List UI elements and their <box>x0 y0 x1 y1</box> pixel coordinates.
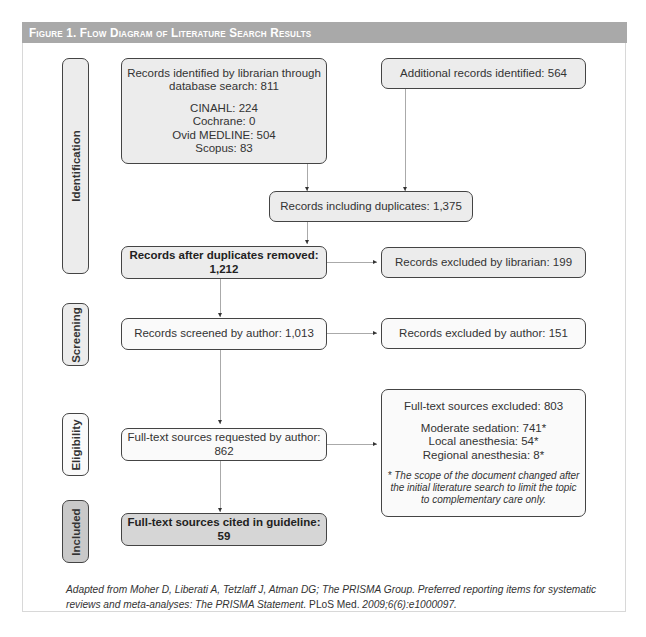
arrow-right-icon <box>373 442 377 446</box>
box-including-duplicates: Records including duplicates: 1,375 <box>269 191 473 222</box>
excluded-author-text: Records excluded by author: 151 <box>399 327 568 341</box>
arrow-right-icon <box>373 260 377 264</box>
including-duplicates-text: Records including duplicates: 1,375 <box>280 200 462 214</box>
stage-label: Eligibility <box>70 419 82 470</box>
figure-title: Figure 1. Flow Diagram of Literature Sea… <box>29 25 311 40</box>
source-cochrane: Cochrane: 0 <box>193 115 256 129</box>
box-cited: Full-text sources cited in guideline: 59 <box>121 513 327 546</box>
connector-line <box>220 460 221 512</box>
scope-note-line1: * The scope of the document changed afte… <box>388 470 580 482</box>
source-ovid-medline: Ovid MEDLINE: 504 <box>172 129 276 143</box>
box-fulltext-excluded: Full-text sources excluded: 803 Moderate… <box>381 389 586 517</box>
stage-identification: Identification <box>62 58 89 274</box>
after-duplicates-text: Records after duplicates removed: 1,212 <box>122 249 326 276</box>
fulltext-excluded-title: Full-text sources excluded: 803 <box>404 400 563 414</box>
source-cinahl: CINAHL: 224 <box>190 102 258 116</box>
reason-regional-anesthesia: Regional anesthesia: 8* <box>423 449 544 463</box>
screened-text: Records screened by author: 1,013 <box>134 327 314 341</box>
connector-line <box>327 444 377 445</box>
stage-label: Included <box>70 508 82 555</box>
stage-label: Screening <box>70 307 82 363</box>
reason-local-anesthesia: Local anesthesia: 54* <box>429 435 539 449</box>
connector-line <box>327 333 377 334</box>
figure-header: Figure 1. Flow Diagram of Literature Sea… <box>22 22 627 43</box>
box-requested: Full-text sources requested by author: 8… <box>121 428 327 461</box>
arrow-right-icon <box>373 331 377 335</box>
stage-included: Included <box>62 500 89 563</box>
box-librarian-search: Records identified by librarian through … <box>121 58 327 164</box>
caption-journal: PLoS Med. <box>306 599 362 610</box>
box-after-duplicates: Records after duplicates removed: 1,212 <box>121 246 327 279</box>
connector-line <box>405 88 406 192</box>
connector-line <box>327 262 377 263</box>
figure-caption: Adapted from Moher D, Liberati A, Tetzla… <box>66 582 606 612</box>
excluded-librarian-text: Records excluded by librarian: 199 <box>395 256 572 270</box>
box-excluded-author: Records excluded by author: 151 <box>381 318 586 349</box>
reason-moderate-sedation: Moderate sedation: 741* <box>421 422 546 436</box>
source-scopus: Scopus: 83 <box>195 142 253 156</box>
arrow-down-icon <box>305 240 309 244</box>
librarian-title-line2: database search: 811 <box>169 80 279 94</box>
cited-text: Full-text sources cited in guideline: 59 <box>122 516 326 543</box>
requested-text: Full-text sources requested by author: 8… <box>122 431 326 458</box>
arrow-down-icon <box>218 508 222 512</box>
scope-note-line3: to complementary care only. <box>421 494 546 506</box>
stage-label: Identification <box>70 130 82 202</box>
stage-screening: Screening <box>62 303 89 366</box>
additional-records-text: Additional records identified: 564 <box>400 67 567 81</box>
box-additional-records: Additional records identified: 564 <box>381 58 586 89</box>
box-excluded-librarian: Records excluded by librarian: 199 <box>381 247 586 278</box>
caption-volume: 2009;6(6):e1000097. <box>362 599 457 610</box>
connector-line <box>220 350 221 424</box>
stage-eligibility: Eligibility <box>62 413 89 476</box>
scope-note-line2: the initial literature search to limit t… <box>390 482 576 494</box>
librarian-title-line1: Records identified by librarian through <box>127 67 321 81</box>
arrow-down-icon <box>218 313 222 317</box>
arrow-down-icon <box>218 420 222 424</box>
box-screened: Records screened by author: 1,013 <box>121 318 327 350</box>
connector-line <box>220 279 221 317</box>
